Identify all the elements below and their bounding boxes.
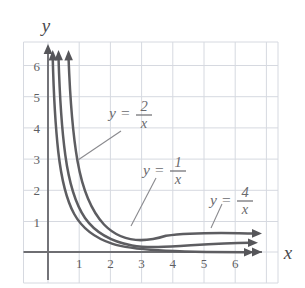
y-tick-4: 4 [34,121,41,136]
curve-arrowhead-right [252,229,262,238]
figure-container: y x 6 5 4 3 2 1 1 2 3 4 5 6 y = 2 x [0,0,305,288]
annotation-1-over-x-lhs: y [141,161,150,178]
x-tick-labels: 1 2 3 4 5 6 [76,256,239,271]
curve-arrowhead-right [248,239,258,248]
x-tick-2: 2 [107,256,114,271]
leader-line-1-over-x [131,178,156,226]
annotation-2-over-x-numerator: 2 [140,98,147,114]
curve-arrowhead-up [54,50,63,61]
annotation-4-over-x-denominator: x [241,201,249,217]
y-tick-2: 2 [34,183,41,198]
y-tick-6: 6 [34,59,41,74]
annotation-1-over-x-equals: = [154,161,164,178]
x-tick-5: 5 [201,256,208,271]
curve-4-over-x [64,50,262,240]
y-tick-3: 3 [34,152,41,167]
annotation-4-over-x-numerator: 4 [241,184,248,200]
annotation-2-over-x-denominator: x [140,115,148,131]
annotation-4-over-x: y = 4 x [208,184,253,217]
annotation-2-over-x-equals: = [120,104,130,121]
annotation-2-over-x-lhs: y [107,104,116,121]
x-tick-3: 3 [138,256,145,271]
leader-lines [78,131,222,228]
x-axis-label: x [283,242,293,263]
curve-arrowhead-up [64,50,73,61]
annotation-1-over-x-numerator: 1 [174,154,181,170]
y-tick-labels: 6 5 4 3 2 1 [34,59,41,230]
leader-line-2-over-x [78,131,121,160]
y-axis-arrowhead [44,44,53,54]
y-axis-label: y [40,15,51,36]
y-tick-1: 1 [34,215,41,230]
x-tick-1: 1 [76,256,83,271]
annotation-1-over-x-denominator: x [174,171,182,187]
annotation-4-over-x-lhs: y [208,191,217,208]
annotation-2-over-x: y = 2 x [107,98,152,131]
hyperbola-graph: y x 6 5 4 3 2 1 1 2 3 4 5 6 y = 2 x [0,0,305,288]
y-tick-5: 5 [34,90,41,105]
x-tick-4: 4 [170,256,177,271]
x-tick-6: 6 [232,256,239,271]
curve-2-over-x [54,50,258,247]
annotation-4-over-x-equals: = [221,191,231,208]
